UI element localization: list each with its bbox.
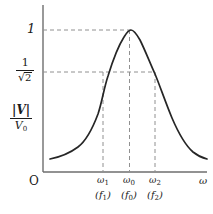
response-curve [50,30,207,159]
x-tick-omega-2: ω2 [138,175,172,188]
omega-subscript: 2 [156,179,160,187]
y-axis-denominator: V0 [10,120,32,133]
freq-open: (f [147,189,155,200]
freq-close: ) [133,189,137,200]
y-axis-fraction: |V| V0 [10,104,32,133]
y-axis-numerator-symbol: V [16,103,25,117]
freq-open: (f [95,189,103,200]
y-axis-denominator-symbol: V [15,119,23,132]
radicand: 2 [24,72,32,84]
y-tick-label-one: 1 [27,22,35,35]
y-tick-label-inv-sqrt-2: 1 √2 [16,57,34,83]
omega-subscript: 0 [130,179,134,187]
freq-close: ) [159,189,163,200]
x-tick-freq-2: (f2) [138,189,172,203]
y-axis-numerator: |V| [10,104,32,117]
x-tick-group-omega-2: ω2 (f2) [138,175,172,202]
x-axis-label-omega: ω [199,176,207,186]
radical: √2 [18,72,32,84]
freq-close: ) [107,189,111,200]
fraction-denominator: √2 [16,72,34,84]
y-axis-denominator-subscript: 0 [23,124,27,132]
resonance-curve-figure: 1 1 √2 |V| V0 O ω ω1 (f1) ω0 (f0) ω2 (f2… [0,0,213,214]
origin-label: O [29,175,39,187]
fraction-inv-sqrt-2: 1 √2 [16,57,34,83]
omega-subscript: 1 [104,179,108,187]
y-axis-label: |V| V0 [10,104,32,133]
fraction-numerator: 1 [16,57,34,69]
freq-open: (f [121,189,129,200]
